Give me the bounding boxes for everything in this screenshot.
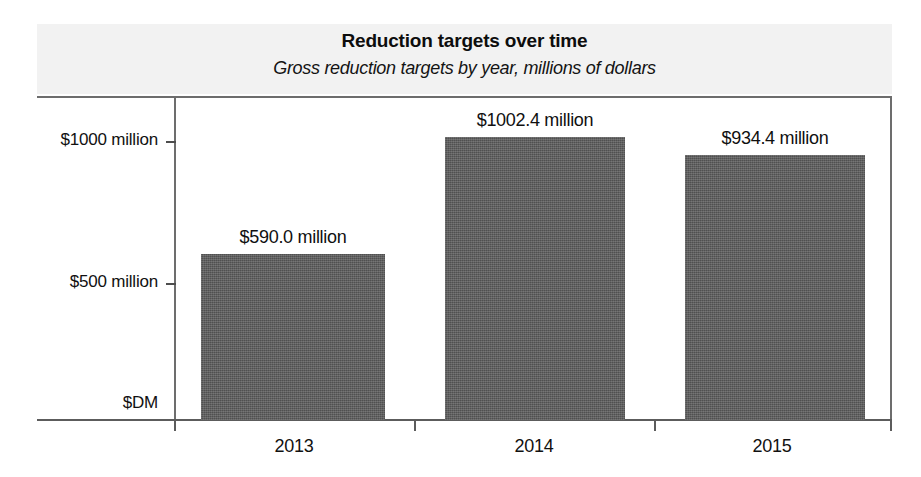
plot-top-border	[37, 96, 892, 98]
y-axis-tick-label-zero: $DM	[0, 393, 158, 413]
y-axis-tick-label-1000: $1000 million	[0, 130, 158, 150]
x-axis-tick-mark-2	[654, 420, 656, 431]
bar-value-label-2015: $934.4 million	[665, 128, 885, 149]
x-axis-tick-mark-0	[174, 420, 176, 431]
plot-right-border	[890, 96, 892, 422]
x-axis-label-2014: 2014	[434, 436, 634, 457]
y-axis-line	[174, 96, 176, 426]
bar-2015[interactable]	[685, 155, 865, 420]
x-axis-tick-mark-3	[890, 420, 892, 431]
chart-title: Reduction targets over time	[37, 30, 892, 52]
bar-2014[interactable]	[445, 137, 625, 420]
y-axis-tick-mark-1000	[166, 141, 176, 143]
bar-chart-figure: Reduction targets over time Gross reduct…	[0, 0, 921, 477]
y-axis-tick-label-500: $500 million	[0, 272, 158, 292]
bar-value-label-2014: $1002.4 million	[425, 110, 645, 131]
x-axis-label-2013: 2013	[194, 436, 394, 457]
x-axis-tick-mark-1	[414, 420, 416, 431]
chart-subtitle: Gross reduction targets by year, million…	[37, 58, 892, 79]
bar-2013[interactable]	[201, 254, 385, 420]
chart-header-band: Reduction targets over time Gross reduct…	[37, 24, 892, 94]
y-axis-tick-mark-500	[166, 283, 176, 285]
bar-value-label-2013: $590.0 million	[183, 227, 403, 248]
x-axis-label-2015: 2015	[672, 436, 872, 457]
